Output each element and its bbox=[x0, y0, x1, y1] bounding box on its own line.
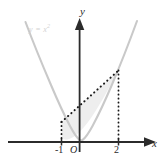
origin-label: O bbox=[70, 145, 77, 155]
curve-equation-exponent: 2 bbox=[47, 23, 50, 29]
x-tick-label-2: 2 bbox=[114, 145, 119, 155]
curve-equation-base: y = x bbox=[29, 25, 47, 34]
y-axis-arrowhead bbox=[75, 18, 84, 30]
x-tick-label-neg1: -1 bbox=[55, 145, 63, 155]
curve-equation-label: y = x2 bbox=[29, 26, 50, 34]
x-axis-label: x bbox=[152, 138, 157, 149]
figure-container: y = x2 y x O -1 2 bbox=[0, 0, 167, 162]
coordinate-plane-graphic bbox=[0, 0, 167, 162]
y-axis-label: y bbox=[80, 6, 85, 17]
